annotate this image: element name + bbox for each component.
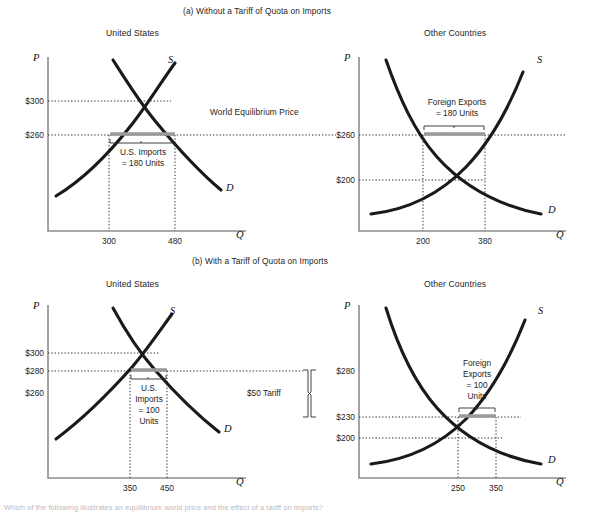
supply-curve-label: S xyxy=(537,54,542,65)
xtick-a-other-200: 200 xyxy=(408,236,438,246)
demand-curve-label: D xyxy=(548,204,556,215)
ytick-b-us-280: $280 xyxy=(8,366,44,376)
demand-curve xyxy=(113,60,221,190)
xtick-a-other-380: 380 xyxy=(470,236,500,246)
ytick-b-other-280: $280 xyxy=(319,366,355,376)
exports-brace xyxy=(459,408,495,412)
annotation-b-us-line3: = 100 xyxy=(118,405,180,416)
world-equilibrium-price-label: World Equilibrium Price xyxy=(210,107,299,117)
ytick-a-us-260: $260 xyxy=(8,130,44,140)
axis-label-q: Q xyxy=(556,229,564,240)
supply-curve xyxy=(371,72,523,214)
ytick-a-other-260: $260 xyxy=(319,130,355,140)
supply-curve-label: S xyxy=(168,54,173,65)
ytick-b-other-200: $200 xyxy=(319,433,355,443)
ytick-b-other-230: $230 xyxy=(319,412,355,422)
annotation-a-us-line1: U.S. Imports xyxy=(97,147,189,158)
axis-label-q: Q xyxy=(236,476,244,487)
axis-label-q: Q xyxy=(556,476,564,487)
annotation-b-other-line2: Exports xyxy=(443,369,511,380)
tariff-bracket-label: $50 Tariff xyxy=(247,388,303,399)
ytick-b-us-260: $260 xyxy=(8,388,44,398)
chart-a-us xyxy=(48,57,246,231)
supply-curve xyxy=(56,63,175,196)
axis-label-p: P xyxy=(33,300,39,311)
xtick-b-other-250: 250 xyxy=(443,483,473,493)
xtick-b-us-350: 350 xyxy=(115,483,145,493)
xtick-b-us-450: 450 xyxy=(152,483,182,493)
tariff-bracket-right xyxy=(308,370,316,417)
annotation-b-us-line4: Units xyxy=(118,416,180,427)
annotation-a-other-line2: = 180 Units xyxy=(406,108,508,119)
demand-curve-label: D xyxy=(548,454,556,465)
demand-curve-label: D xyxy=(224,423,232,434)
supply-curve-label: S xyxy=(170,305,175,316)
axis-label-p: P xyxy=(344,52,350,63)
annotation-b-other-line1: Foreign xyxy=(443,358,511,369)
ytick-a-us-300: $300 xyxy=(8,96,44,106)
annotation-b-us-line2: Imports xyxy=(118,394,180,405)
axis-lines xyxy=(359,57,566,231)
axis-label-q: Q xyxy=(236,229,244,240)
annotation-b-us-line1: U.S. xyxy=(118,383,180,394)
ytick-a-other-200: $200 xyxy=(319,175,355,185)
axis-label-p: P xyxy=(344,300,350,311)
economics-figure: (a) Without a Tariff of Quota on Imports… xyxy=(0,0,590,512)
annotation-a-other-line1: Foreign Exports xyxy=(406,97,508,108)
xtick-b-other-350: 350 xyxy=(481,483,511,493)
annotation-b-other-line3: = 100 xyxy=(443,380,511,391)
exports-brace xyxy=(424,126,484,130)
bottom-cut-text: Which of the following illustrates an eq… xyxy=(4,503,586,512)
ytick-b-us-300: $300 xyxy=(8,348,44,358)
axis-lines xyxy=(48,57,246,231)
supply-curve-label: S xyxy=(538,305,543,316)
annotation-a-us-line2: = 180 Units xyxy=(97,158,189,169)
xtick-a-us-480: 480 xyxy=(160,236,190,246)
chart-a-other xyxy=(246,57,566,231)
axis-label-p: P xyxy=(33,52,39,63)
annotation-b-other-line4: Units xyxy=(443,391,511,402)
figure-canvas xyxy=(0,0,590,512)
demand-curve-label: D xyxy=(226,182,234,193)
xtick-a-us-300: 300 xyxy=(94,236,124,246)
